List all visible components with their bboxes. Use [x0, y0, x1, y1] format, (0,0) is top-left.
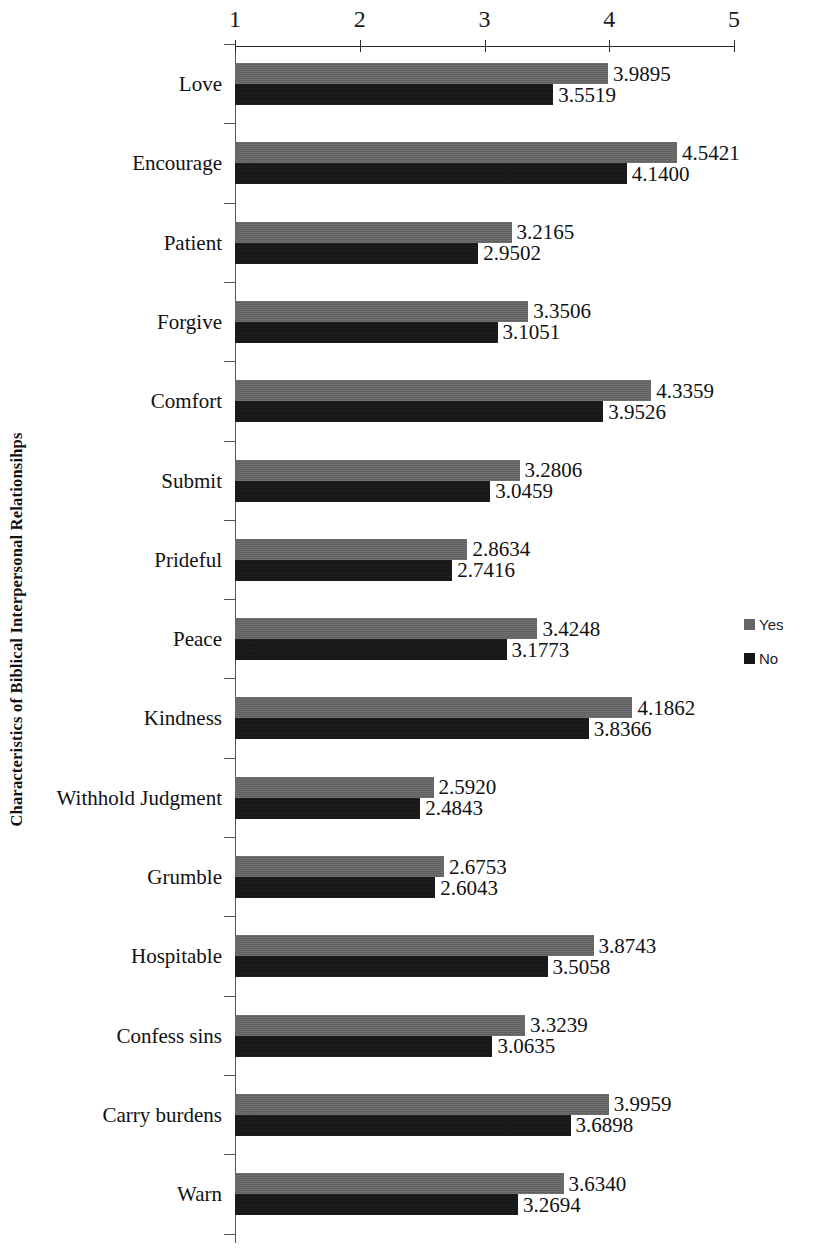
bar-yes: 3.3239 — [235, 1015, 525, 1036]
x-axis-tick-label: 3 — [465, 6, 505, 33]
bar-yes: 2.8634 — [235, 539, 467, 560]
category-label: Comfort — [151, 389, 222, 414]
bar-no: 3.8366 — [235, 718, 589, 739]
category-axis-tick — [224, 837, 235, 838]
bar-group: Hospitable3.87433.5058 — [235, 935, 734, 977]
category-axis-tick — [224, 996, 235, 997]
category-label: Forgive — [157, 309, 222, 334]
category-label: Submit — [161, 468, 222, 493]
x-axis-tick-label: 4 — [589, 6, 629, 33]
category-axis-tick — [224, 758, 235, 759]
bar-no: 2.6043 — [235, 877, 435, 898]
bar-yes: 3.4248 — [235, 618, 537, 639]
category-label: Warn — [177, 1182, 222, 1207]
bar-value-label: 3.6898 — [576, 1113, 634, 1138]
bar-yes: 4.3359 — [235, 380, 651, 401]
bar-yes: 2.5920 — [235, 777, 434, 798]
bar-value-label: 2.7416 — [457, 558, 515, 583]
bar-value-label: 4.5421 — [682, 140, 740, 165]
bar-yes: 3.3506 — [235, 301, 528, 322]
bar-no: 3.1773 — [235, 639, 507, 660]
category-axis-tick — [224, 599, 235, 600]
bar-group: Kindness4.18623.8366 — [235, 697, 734, 739]
bar-no: 3.1051 — [235, 322, 498, 343]
category-label: Confess sins — [116, 1023, 222, 1048]
category-label: Love — [179, 72, 222, 97]
bar-group: Submit3.28063.0459 — [235, 460, 734, 502]
bar-yes: 3.8743 — [235, 935, 594, 956]
bar-yes: 4.1862 — [235, 697, 632, 718]
category-label: Kindness — [144, 706, 222, 731]
legend-item: Yes — [744, 607, 810, 641]
bar-value-label: 3.8366 — [594, 716, 652, 741]
category-axis-tick — [224, 441, 235, 442]
x-axis-tick-label: 5 — [714, 6, 754, 33]
bar-no: 3.5058 — [235, 956, 548, 977]
bar-no: 3.9526 — [235, 401, 603, 422]
bar-no: 4.1400 — [235, 163, 627, 184]
bar-yes: 3.9959 — [235, 1094, 609, 1115]
category-axis-tick — [224, 1154, 235, 1155]
bar-no: 3.2694 — [235, 1194, 518, 1215]
category-label: Hospitable — [131, 944, 222, 969]
bar-group: Grumble2.67532.6043 — [235, 856, 734, 898]
category-axis-tick — [224, 678, 235, 679]
bar-value-label: 2.4843 — [425, 796, 483, 821]
category-axis-tick — [224, 203, 235, 204]
category-label: Prideful — [154, 547, 222, 572]
category-axis-tick — [224, 361, 235, 362]
bar-group: Encourage4.54214.1400 — [235, 142, 734, 184]
bar-group: Peace3.42483.1773 — [235, 618, 734, 660]
bar-yes: 2.6753 — [235, 856, 444, 877]
bar-no: 3.6898 — [235, 1115, 571, 1136]
category-label: Carry burdens — [102, 1102, 222, 1127]
category-label: Withhold Judgment — [57, 785, 222, 810]
bar-value-label: 3.9526 — [608, 399, 666, 424]
category-axis-tick — [224, 123, 235, 124]
chart-legend: YesNo — [744, 607, 810, 675]
category-axis-tick — [224, 44, 235, 45]
bar-yes: 4.5421 — [235, 142, 677, 163]
x-axis-tick — [734, 40, 735, 52]
bar-group: Love3.98953.5519 — [235, 63, 734, 105]
bar-no: 2.7416 — [235, 560, 452, 581]
bar-no: 3.0459 — [235, 481, 490, 502]
x-axis-tick — [485, 40, 486, 52]
category-label: Patient — [164, 230, 222, 255]
bar-group: Comfort4.33593.9526 — [235, 380, 734, 422]
x-axis-tick-label: 1 — [215, 6, 255, 33]
x-axis-tick — [609, 40, 610, 52]
bar-yes: 3.2806 — [235, 460, 520, 481]
legend-swatch-icon — [744, 653, 755, 664]
y-axis-title: Characteristics of Biblical Interpersona… — [0, 0, 34, 1259]
category-axis-tick — [224, 916, 235, 917]
bar-no: 3.5519 — [235, 84, 553, 105]
bar-value-label: 3.1773 — [512, 637, 570, 662]
bar-value-label: 3.0459 — [495, 479, 553, 504]
bar-value-label: 2.6043 — [440, 875, 498, 900]
bar-value-label: 3.9895 — [613, 61, 671, 86]
bar-value-label: 3.0635 — [497, 1034, 555, 1059]
bar-no: 2.4843 — [235, 798, 420, 819]
bar-value-label: 4.1400 — [632, 161, 690, 186]
bar-group: Forgive3.35063.1051 — [235, 301, 734, 343]
bar-value-label: 3.1051 — [503, 320, 561, 345]
bar-yes: 3.9895 — [235, 63, 608, 84]
legend-item: No — [744, 641, 810, 675]
bar-value-label: 3.5058 — [553, 954, 611, 979]
category-axis-tick — [224, 1075, 235, 1076]
bar-value-label: 2.9502 — [483, 241, 541, 266]
bar-group: Withhold Judgment2.59202.4843 — [235, 777, 734, 819]
category-axis-tick — [224, 520, 235, 521]
legend-label: Yes — [759, 616, 783, 633]
bar-chart-figure: Characteristics of Biblical Interpersona… — [0, 0, 814, 1259]
plot-area: 12345 Love3.98953.5519Encourage4.54214.1… — [235, 46, 734, 1251]
category-label: Grumble — [147, 865, 222, 890]
bar-value-label: 3.5519 — [558, 82, 616, 107]
bar-group: Patient3.21652.9502 — [235, 222, 734, 264]
x-axis-tick-label: 2 — [340, 6, 380, 33]
bar-yes: 3.2165 — [235, 222, 512, 243]
category-axis-tick — [224, 1234, 235, 1235]
x-axis-tick — [235, 40, 236, 52]
bar-no: 3.0635 — [235, 1036, 492, 1057]
